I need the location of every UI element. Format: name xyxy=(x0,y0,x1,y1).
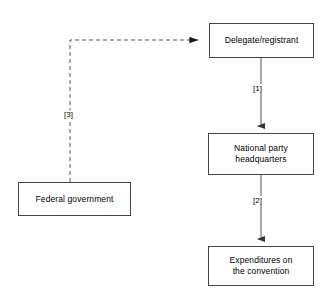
node-delegate-registrant[interactable]: Delegate/registrant xyxy=(209,23,314,58)
diagram-canvas: Delegate/registrant National party headq… xyxy=(0,0,332,298)
node-expenditures-on-the-convention-label: Expenditures on the convention xyxy=(227,255,296,277)
node-national-party-headquarters[interactable]: National party headquarters xyxy=(208,133,314,175)
connector-federal-government-to-delegate xyxy=(70,40,198,182)
node-federal-government[interactable]: Federal government xyxy=(18,182,131,216)
node-delegate-registrant-label: Delegate/registrant xyxy=(222,35,302,46)
node-national-party-headquarters-label: National party headquarters xyxy=(231,143,291,165)
edge-label-3: [3] xyxy=(63,110,74,119)
edge-label-2: [2] xyxy=(252,196,263,205)
edge-label-1: [1] xyxy=(252,84,263,93)
node-expenditures-on-the-convention[interactable]: Expenditures on the convention xyxy=(208,246,314,286)
node-federal-government-label: Federal government xyxy=(33,194,117,205)
